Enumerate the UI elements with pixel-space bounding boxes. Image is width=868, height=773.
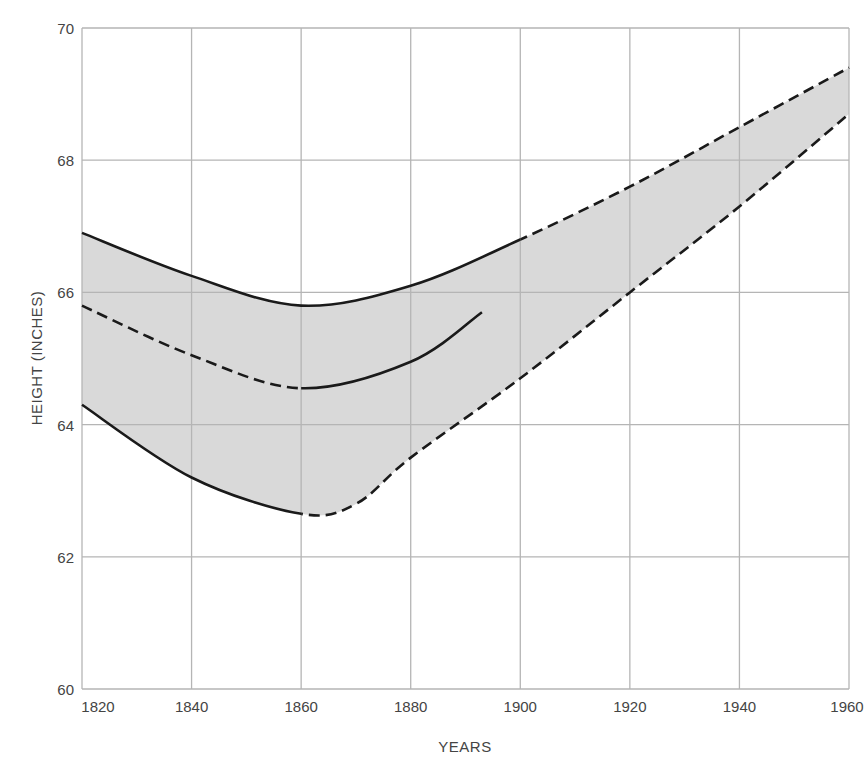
y-tick-label: 66 bbox=[57, 284, 74, 301]
y-axis-title: HEIGHT (INCHES) bbox=[28, 291, 45, 426]
y-tick-label: 60 bbox=[57, 681, 74, 698]
shaded-band bbox=[82, 68, 849, 516]
x-axis-title: YEARS bbox=[438, 738, 491, 755]
x-tick-label: 1960 bbox=[830, 698, 863, 715]
y-tick-label: 68 bbox=[57, 152, 74, 169]
y-tick-label: 64 bbox=[57, 417, 74, 434]
y-axis-ticks: 606264666870 bbox=[57, 20, 74, 698]
x-tick-label: 1940 bbox=[723, 698, 756, 715]
y-tick-label: 62 bbox=[57, 549, 74, 566]
height-chart: 18201840186018801900192019401960 6062646… bbox=[0, 0, 868, 773]
x-tick-label: 1880 bbox=[394, 698, 427, 715]
x-tick-label: 1840 bbox=[175, 698, 208, 715]
x-axis-ticks: 18201840186018801900192019401960 bbox=[81, 698, 863, 715]
x-tick-label: 1900 bbox=[504, 698, 537, 715]
x-tick-label: 1820 bbox=[81, 698, 114, 715]
y-tick-label: 70 bbox=[57, 20, 74, 37]
band-fill bbox=[82, 68, 849, 516]
x-tick-label: 1920 bbox=[613, 698, 646, 715]
x-tick-label: 1860 bbox=[284, 698, 317, 715]
